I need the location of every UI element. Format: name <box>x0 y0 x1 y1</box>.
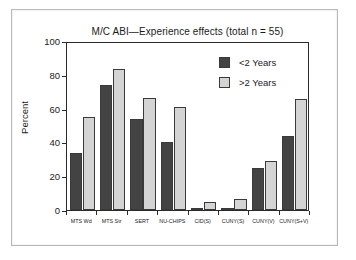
bar-chart: M/C ABI—Experience effects (total n = 55… <box>0 0 356 260</box>
bar <box>70 153 82 210</box>
bar <box>204 202 216 210</box>
bar <box>295 99 307 210</box>
y-tick-label: 100 <box>32 37 60 46</box>
legend-swatch <box>219 57 230 68</box>
y-tick-label: 60 <box>32 105 60 114</box>
y-tick-label: 20 <box>32 172 60 181</box>
legend-swatch <box>219 77 230 88</box>
bar <box>113 69 125 210</box>
x-tick-mark <box>279 211 280 215</box>
legend-item: >2 Years <box>219 77 276 88</box>
plot-area: <2 Years>2 Years <box>66 42 309 211</box>
y-tick-label: 0 <box>32 206 60 215</box>
legend-item: <2 Years <box>219 57 276 68</box>
x-tick-mark <box>66 211 67 215</box>
x-tick-mark <box>188 211 189 215</box>
bar <box>221 208 233 210</box>
bar <box>234 199 246 210</box>
x-tick-mark <box>127 211 128 215</box>
x-tick-mark <box>157 211 158 215</box>
bar <box>100 85 112 210</box>
legend-label: <2 Years <box>239 57 276 68</box>
bar <box>130 119 142 210</box>
bar <box>191 208 203 210</box>
x-tick-mark <box>248 211 249 215</box>
bar <box>83 117 95 210</box>
bar <box>174 107 186 210</box>
bar <box>252 168 264 210</box>
bar <box>161 142 173 210</box>
y-axis-title: Percent <box>19 78 30 158</box>
x-tick-mark <box>309 211 310 215</box>
bar <box>265 161 277 210</box>
screenshot-root: M/C ABI—Experience effects (total n = 55… <box>0 0 356 260</box>
x-tick-label: CUNY(S+V) <box>270 218 318 224</box>
bar <box>282 136 294 210</box>
bar <box>143 98 155 210</box>
x-tick-mark <box>218 211 219 215</box>
x-tick-mark <box>96 211 97 215</box>
legend-label: >2 Years <box>239 77 276 88</box>
chart-title: M/C ABI—Experience effects (total n = 55… <box>66 26 309 37</box>
y-tick-label: 40 <box>32 138 60 147</box>
chart-legend: <2 Years>2 Years <box>219 57 276 97</box>
y-tick-label: 80 <box>32 71 60 80</box>
